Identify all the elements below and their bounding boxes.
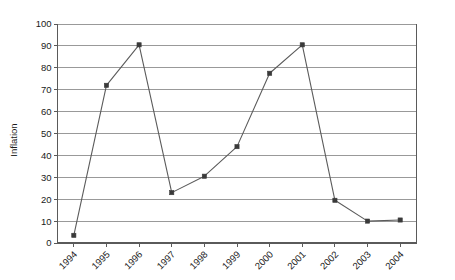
y-tick-label-30: 30: [41, 172, 52, 183]
data-point-1995: [104, 83, 108, 87]
inflation-line-chart-figure: 0102030405060708090100 19941995199619971…: [0, 0, 455, 280]
y-tick-label-10: 10: [41, 216, 52, 227]
y-tick-label-40: 40: [41, 150, 52, 161]
gridlines-group: [58, 24, 417, 243]
y-tick-label-70: 70: [41, 84, 52, 95]
y-tick-label-50: 50: [41, 128, 52, 139]
x-tick-label-1994: 1994: [57, 249, 80, 272]
y-tick-label-0: 0: [46, 237, 51, 248]
x-tick-label-1997: 1997: [154, 249, 177, 272]
x-tick-label-1995: 1995: [89, 249, 112, 272]
y-tick-label-80: 80: [41, 62, 52, 73]
x-tick-labels-group: 1994199519961997199819992000200120022003…: [57, 249, 406, 272]
x-tick-label-2000: 2000: [252, 249, 275, 272]
y-axis-title: Inflation: [8, 123, 19, 156]
inflation-series-markers: [72, 43, 403, 238]
data-point-2002: [333, 198, 337, 202]
x-tick-label-2001: 2001: [285, 249, 308, 272]
y-tick-label-20: 20: [41, 194, 52, 205]
x-tick-label-1996: 1996: [122, 249, 145, 272]
data-point-1998: [202, 174, 206, 178]
data-point-1994: [72, 233, 76, 237]
data-point-1997: [170, 191, 174, 195]
data-point-1999: [235, 145, 239, 149]
x-tick-label-2003: 2003: [350, 249, 373, 272]
x-tick-label-1999: 1999: [220, 249, 243, 272]
y-tick-labels-group: 0102030405060708090100: [36, 18, 52, 248]
data-point-2004: [398, 218, 402, 222]
inflation-series-line: [74, 45, 400, 236]
x-tick-label-1998: 1998: [187, 249, 210, 272]
data-point-2000: [268, 71, 272, 75]
x-tick-label-2002: 2002: [318, 249, 341, 272]
data-point-1996: [137, 43, 141, 47]
data-point-2001: [300, 43, 304, 47]
x-tick-label-2004: 2004: [383, 249, 406, 272]
y-tick-label-60: 60: [41, 106, 52, 117]
y-tick-label-100: 100: [36, 18, 52, 29]
y-tick-label-90: 90: [41, 40, 52, 51]
data-point-2003: [365, 219, 369, 223]
chart-canvas: 0102030405060708090100 19941995199619971…: [0, 0, 455, 280]
x-tick-marks-group: [74, 243, 400, 247]
